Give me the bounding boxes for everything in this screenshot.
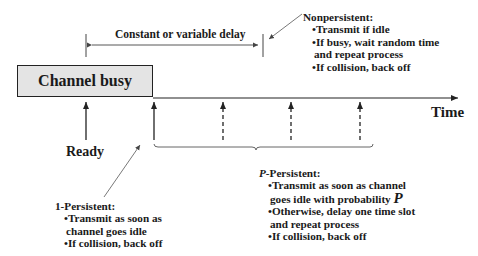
channel-busy-box: Channel busy xyxy=(17,65,153,97)
one-persistent-leader xyxy=(104,145,140,197)
one-persistent-note: 1-Persistent: •Transmit as soon as chann… xyxy=(55,200,162,250)
p-persistent-item: goes idle with probability P xyxy=(259,192,415,205)
nonpersistent-leader xyxy=(269,14,302,39)
channel-busy-label: Channel busy xyxy=(38,72,132,90)
nonpersistent-item: and repeat process xyxy=(303,48,439,60)
p-persistent-note: P-Persistent: •Transmit as soon as chann… xyxy=(259,167,415,242)
probability-symbol: P xyxy=(394,190,403,206)
p-persistent-item: •Otherwise, delay one time slot xyxy=(259,205,415,217)
delay-label: Constant or variable delay xyxy=(115,28,245,40)
one-persistent-item: channel goes idle xyxy=(55,225,162,237)
p-persistent-bracket xyxy=(154,144,373,150)
nonpersistent-item: •If collision, back off xyxy=(303,61,439,73)
p-persistent-item: •If collision, back off xyxy=(259,230,415,242)
ready-label: Ready xyxy=(66,144,104,160)
p-persistent-item: and repeat process xyxy=(259,218,415,230)
time-label: Time xyxy=(431,104,464,121)
nonpersistent-note: Nonpersistent: •Transmit if idle •If bus… xyxy=(303,11,439,73)
nonpersistent-item: •Transmit if idle xyxy=(303,23,439,35)
p-persistent-item: •Transmit as soon as channel xyxy=(259,179,415,191)
one-persistent-item: •If collision, back off xyxy=(55,237,162,249)
one-persistent-item: •Transmit as soon as xyxy=(55,212,162,224)
nonpersistent-heading: Nonpersistent: xyxy=(303,11,439,23)
p-symbol: P xyxy=(259,167,266,179)
nonpersistent-item: •If busy, wait random time xyxy=(303,36,439,48)
one-persistent-heading: 1-Persistent: xyxy=(55,200,162,212)
p-persistent-heading: P-Persistent: xyxy=(259,167,415,179)
time-slot-arrows xyxy=(223,102,360,140)
